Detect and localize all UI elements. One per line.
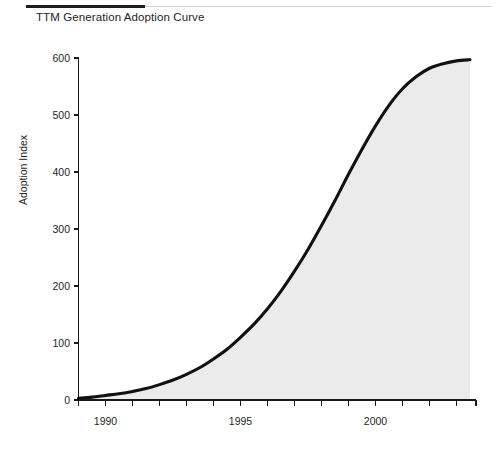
- x-tick-label: 2000: [364, 415, 387, 427]
- y-tick-label: 500: [36, 109, 70, 121]
- y-tick-label: 100: [36, 337, 70, 349]
- y-axis-title: Adoption Index: [17, 135, 29, 205]
- y-tick-label: 300: [36, 223, 70, 235]
- area-fill-group: [79, 60, 471, 400]
- y-tick-label: 400: [36, 166, 70, 178]
- x-tick-label: 1990: [94, 415, 117, 427]
- y-tick-label: 200: [36, 280, 70, 292]
- y-tick-label: 0: [36, 394, 70, 406]
- plot-canvas: [0, 0, 502, 455]
- y-tick-label: 600: [36, 52, 70, 64]
- adoption-area-fill: [79, 60, 471, 400]
- x-tick-label: 1995: [229, 415, 252, 427]
- chart-figure: TTM Generation Adoption Curve 0100200300…: [0, 0, 502, 455]
